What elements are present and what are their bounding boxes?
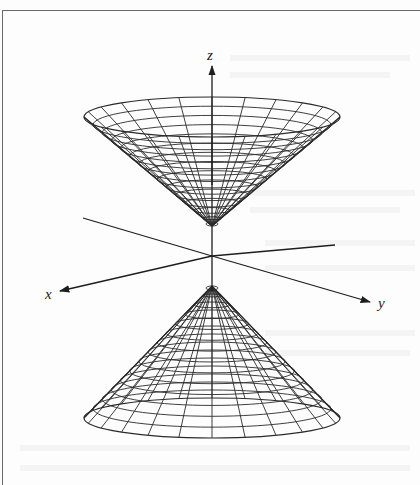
cone-meridian-line (148, 100, 212, 226)
double-cone-figure (0, 0, 420, 485)
cone-meridian-line (122, 286, 213, 404)
lower-cone-nappe (84, 286, 340, 438)
cone-meridian-line (212, 286, 303, 432)
cone-meridian-line (212, 286, 323, 408)
cone-meridian-line (122, 103, 213, 226)
cone-meridian-line (212, 286, 276, 435)
cone-meridian-line (212, 100, 276, 226)
x-axis-label: x (45, 287, 52, 302)
y-axis-label: y (378, 296, 385, 311)
cone-meridian-line (212, 103, 303, 226)
x-axis (60, 256, 212, 291)
cone-meridian-line (122, 286, 213, 432)
cone-meridian-line (148, 286, 212, 435)
cone-meridian-line (212, 286, 303, 404)
figure-page: z x y (0, 0, 420, 485)
z-axis-label: z (207, 48, 213, 63)
y-axis (212, 256, 370, 302)
cone-meridian-line (101, 286, 212, 408)
x-axis-back (212, 245, 335, 256)
y-axis-back (83, 218, 212, 256)
